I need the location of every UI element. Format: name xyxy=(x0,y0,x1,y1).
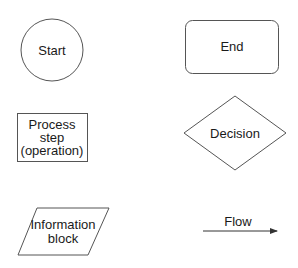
start-symbol: Start xyxy=(21,19,83,81)
process-symbol: Process step (operation) xyxy=(18,114,88,162)
flow-label: Flow xyxy=(224,214,252,229)
flowchart-symbols-diagram: Start End Process step (operation) Decis… xyxy=(0,0,298,268)
information-label-line-2: block xyxy=(48,231,79,246)
information-symbol: Information block xyxy=(18,208,109,255)
end-symbol: End xyxy=(186,21,279,74)
process-label-line-3: (operation) xyxy=(21,143,84,158)
start-label: Start xyxy=(38,43,66,58)
information-label-line-1: Information xyxy=(30,217,95,232)
flow-symbol: Flow xyxy=(203,214,277,231)
decision-label: Decision xyxy=(210,126,260,141)
end-label: End xyxy=(220,39,243,54)
decision-symbol: Decision xyxy=(184,96,286,170)
